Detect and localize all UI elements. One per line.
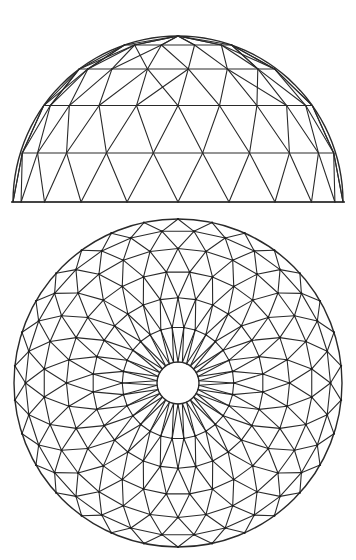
strut-line (241, 426, 251, 440)
elevation-struts (13, 36, 343, 202)
strut-line (128, 452, 143, 461)
strut-line (50, 316, 61, 342)
hub-node (21, 433, 23, 435)
hub-node (102, 465, 104, 467)
strut-line (88, 300, 104, 317)
strut-line (268, 317, 280, 337)
strut-line (93, 357, 97, 374)
strut-line (36, 301, 39, 321)
strut-line (229, 395, 233, 406)
hub-node (14, 399, 16, 401)
strut-line (66, 383, 68, 406)
strut-line (194, 535, 212, 544)
strut-line (122, 277, 143, 286)
strut-line (150, 335, 169, 364)
strut-line (221, 45, 274, 69)
strut-line (67, 153, 81, 202)
strut-line (229, 406, 252, 426)
strut-line (290, 369, 312, 383)
strut-line (76, 496, 102, 515)
hub-node (252, 465, 254, 467)
hub-node (279, 337, 281, 339)
strut-line (280, 425, 306, 429)
strut-line (268, 449, 294, 451)
hub-node (194, 435, 196, 437)
strut-line (122, 383, 157, 385)
strut-line (233, 251, 255, 260)
hub-node (122, 370, 124, 372)
strut-line (317, 415, 327, 445)
strut-line (228, 300, 252, 314)
strut-line (67, 106, 70, 153)
strut-line (287, 360, 289, 383)
hub-node (149, 334, 151, 336)
strut-line (233, 392, 263, 395)
strut-line (99, 480, 122, 492)
strut-line (162, 535, 178, 547)
strut-line (99, 492, 102, 515)
strut-line (123, 395, 127, 406)
hub-node (160, 435, 162, 437)
strut-line (29, 415, 39, 445)
hub-node (38, 444, 40, 446)
strut-line (257, 106, 290, 153)
strut-line (78, 449, 88, 473)
strut-line (123, 360, 127, 371)
strut-line (278, 270, 280, 293)
plan-struts (15, 219, 341, 547)
strut-line (123, 506, 150, 515)
hub-node (183, 437, 185, 439)
hub-node (277, 292, 279, 294)
hub-node (311, 396, 313, 398)
hub-node (205, 430, 207, 432)
strut-line (196, 360, 229, 372)
hub-node (35, 300, 37, 302)
hub-node (305, 423, 307, 425)
hub-node (92, 391, 94, 393)
strut-line (122, 480, 143, 489)
hub-node (211, 221, 213, 223)
hub-node (273, 249, 275, 251)
strut-line (199, 381, 234, 383)
strut-line (150, 515, 162, 535)
hub-node (251, 339, 253, 341)
strut-line (160, 272, 166, 299)
strut-line (122, 260, 123, 286)
strut-line (160, 438, 172, 466)
strut-line (25, 351, 28, 383)
hub-node (110, 532, 112, 534)
strut-line (280, 338, 306, 342)
hub-node (159, 298, 161, 300)
hub-node (142, 460, 144, 462)
strut-line (62, 316, 88, 318)
strut-line (44, 369, 66, 383)
hub-node (142, 276, 144, 278)
strut-line (294, 450, 301, 472)
hub-node (311, 368, 313, 370)
strut-line (172, 438, 178, 468)
strut-line (259, 392, 263, 409)
strut-line (79, 45, 124, 69)
strut-line (78, 274, 99, 293)
strut-line (233, 371, 234, 383)
hub-node (149, 513, 151, 515)
strut-line (184, 300, 196, 328)
strut-line (194, 515, 206, 535)
strut-line (178, 298, 196, 300)
strut-line (268, 449, 278, 473)
strut-line (290, 383, 312, 397)
hub-node (43, 396, 45, 398)
strut-line (241, 326, 251, 340)
hub-node (38, 320, 40, 322)
strut-line (22, 106, 50, 153)
hub-node (227, 313, 229, 315)
hub-node (333, 331, 335, 333)
hub-node (214, 340, 216, 342)
strut-line (69, 357, 97, 360)
strut-line (212, 277, 233, 286)
strut-line (162, 231, 178, 248)
geodesic-dome-figure (0, 0, 356, 560)
strut-line (190, 272, 196, 299)
strut-line (178, 468, 190, 494)
strut-line (317, 321, 327, 351)
